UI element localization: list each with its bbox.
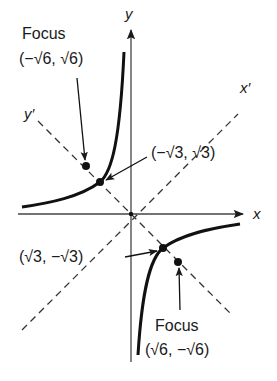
vertex-lower-pointer (125, 251, 157, 257)
y-axis-label: y (125, 6, 133, 21)
hyperbola-branch-upper-left (22, 52, 124, 207)
x-axis-label: x (253, 206, 261, 221)
focus-lower-dot (174, 258, 182, 266)
focus-lower-coord: (√6, −√6) (145, 342, 209, 358)
hyperbola-branch-lower-right (138, 224, 240, 355)
origin-dot (129, 212, 133, 216)
focus-lower-word: Focus (155, 318, 199, 334)
focus-upper-pointer (77, 78, 85, 160)
vertex-upper-dot (96, 178, 104, 186)
focus-lower-pointer (179, 268, 180, 310)
vertex-lower-dot (159, 244, 167, 252)
y-prime-axis-label: y′ (24, 106, 34, 121)
focus-upper-coord: (−√6, √6) (19, 51, 83, 67)
x-prime-axis-label: x′ (240, 80, 250, 95)
focus-upper-word: Focus (22, 26, 66, 42)
vertex-lower-coord: (√3, −√3) (19, 249, 83, 265)
vertex-upper-coord: (−√3, √3) (151, 145, 215, 161)
focus-upper-dot (82, 162, 90, 170)
